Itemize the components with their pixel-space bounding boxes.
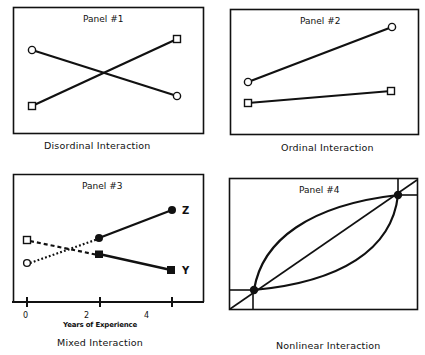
open-circle-marker-icon [28, 46, 35, 53]
upper-intersection-point-icon [394, 191, 402, 199]
filled-square-marker-icon [95, 251, 103, 259]
panel-2-title: Panel #2 [300, 16, 340, 26]
open-square-marker-icon [174, 36, 181, 43]
figure-canvas [0, 0, 425, 355]
panel-4-title: Panel #4 [299, 185, 339, 195]
open-square-marker-icon [388, 88, 395, 95]
open-circle-marker-icon [244, 78, 251, 85]
panel-2-caption: Ordinal Interaction [281, 142, 374, 153]
panel-2-plot [231, 10, 419, 135]
x-axis-label: Years of Experience [63, 321, 137, 329]
filled-square-marker-icon [167, 266, 175, 274]
panel-1-caption: Disordinal Interaction [44, 140, 151, 151]
panel-2-square-line [248, 91, 391, 103]
panel-1-plot [14, 8, 204, 134]
panel-3-plot [12, 175, 204, 308]
series-label-y: Y [182, 265, 189, 276]
x-tick-label-2: 2 [84, 311, 89, 320]
open-circle-marker-icon [173, 92, 180, 99]
open-square-marker-icon [24, 237, 31, 244]
panel-3-title: Panel #3 [82, 181, 122, 191]
panel-4-caption: Nonlinear Interaction [276, 340, 381, 351]
open-circle-marker-icon [24, 260, 31, 267]
x-tick-label-4: 4 [144, 311, 149, 320]
panel-3-z-solid-segment [99, 210, 172, 238]
lower-intersection-point-icon [250, 286, 258, 294]
panel-3-frame [14, 175, 204, 303]
filled-circle-marker-icon [168, 206, 176, 214]
panel-1-title: Panel #1 [83, 14, 123, 24]
panel-1-square-line [32, 39, 177, 106]
panel-3-y-solid-segment [99, 254, 171, 270]
panel-3-caption: Mixed Interaction [57, 337, 143, 348]
x-tick-label-0: 0 [23, 311, 28, 320]
open-circle-marker-icon [388, 23, 395, 30]
panel-4-plot [229, 178, 418, 310]
filled-circle-marker-icon [95, 234, 103, 242]
open-square-marker-icon [245, 100, 252, 107]
panel-2-circle-line [248, 27, 392, 82]
series-label-z: Z [182, 205, 189, 216]
open-square-marker-icon [29, 103, 36, 110]
